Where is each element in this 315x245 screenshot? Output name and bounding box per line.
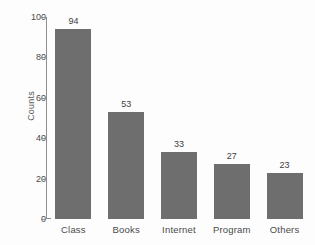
bar-value-label: 27 (227, 152, 237, 161)
bar-value-label: 94 (68, 17, 78, 26)
y-tick-mark (41, 219, 46, 220)
bar-value-label: 33 (174, 140, 184, 149)
y-tick-20: 20 (0, 179, 46, 180)
x-label-program: Program (205, 224, 258, 235)
y-tick-80: 80 (0, 57, 46, 58)
bar-group: 53 (100, 17, 153, 219)
y-tick-60: 60 (0, 98, 46, 99)
bar-group: 23 (258, 17, 311, 219)
y-tick-100: 100 (0, 17, 46, 18)
x-label-books: Books (100, 224, 153, 235)
x-label-others: Others (258, 224, 311, 235)
bar-group: 94 (47, 17, 100, 219)
bar-internet[interactable] (161, 152, 197, 219)
bar-class[interactable] (55, 29, 91, 219)
bar-books[interactable] (108, 112, 144, 219)
bar-value-label: 23 (280, 161, 290, 170)
bar-program[interactable] (214, 164, 250, 219)
x-label-class: Class (47, 224, 100, 235)
y-tick-40: 40 (0, 138, 46, 139)
plot-area: 9453332723 (47, 17, 311, 219)
x-label-internet: Internet (153, 224, 206, 235)
bar-group: 27 (205, 17, 258, 219)
bar-value-label: 53 (121, 100, 131, 109)
bar-chart: Counts 020406080100 9453332723 ClassBook… (0, 0, 315, 245)
bar-others[interactable] (267, 173, 303, 219)
y-tick-0: 0 (0, 219, 46, 220)
bar-group: 33 (153, 17, 206, 219)
y-axis-title: Counts (26, 76, 36, 136)
